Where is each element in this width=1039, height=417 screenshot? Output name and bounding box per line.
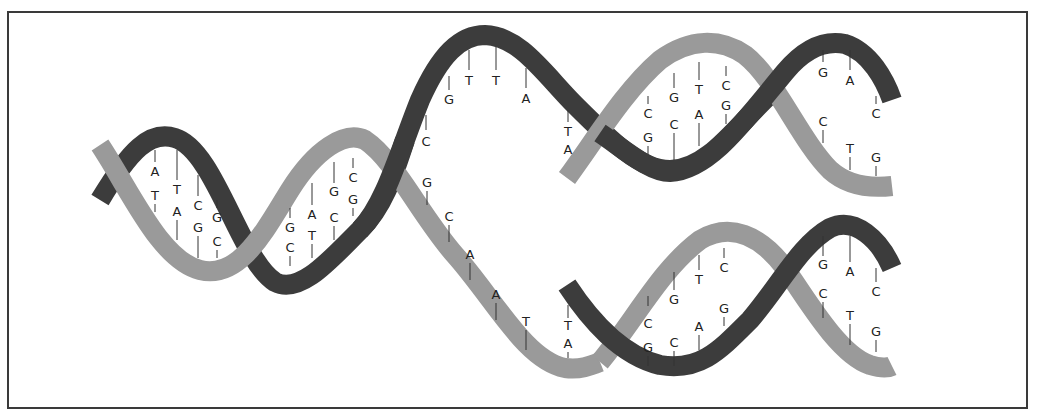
base-label: T bbox=[694, 272, 703, 287]
base-label: C bbox=[818, 286, 827, 301]
base-label: C bbox=[643, 316, 652, 331]
base-label: A bbox=[492, 287, 501, 302]
base-label: T bbox=[694, 82, 703, 97]
daughter-helix-top bbox=[567, 43, 892, 187]
base-label: C bbox=[721, 78, 730, 93]
base-label: A bbox=[846, 264, 855, 279]
base-label: A bbox=[522, 91, 531, 106]
base-label: T bbox=[464, 73, 473, 88]
base-label: C bbox=[444, 209, 453, 224]
base-label: T bbox=[307, 228, 316, 243]
base-label: A bbox=[308, 207, 317, 222]
base-label: G bbox=[871, 324, 881, 339]
base-label: G bbox=[422, 175, 432, 190]
base-label: G bbox=[721, 98, 731, 113]
base-label: T bbox=[172, 182, 181, 197]
base-label: C bbox=[348, 170, 357, 185]
base-label: C bbox=[669, 117, 678, 132]
base-label: C bbox=[329, 210, 338, 225]
base-label: G bbox=[818, 65, 828, 80]
base-label: T bbox=[845, 141, 854, 156]
base-label: G bbox=[193, 220, 203, 235]
base-label: C bbox=[421, 134, 430, 149]
base-label: G bbox=[348, 192, 358, 207]
base-label: T bbox=[563, 318, 572, 333]
base-label: G bbox=[871, 150, 881, 165]
base-label: C bbox=[193, 198, 202, 213]
base-label: T bbox=[521, 314, 530, 329]
base-label: G bbox=[669, 90, 679, 105]
daughter-helix-bottom bbox=[567, 225, 892, 368]
base-label: G bbox=[329, 184, 339, 199]
base-label: G bbox=[643, 340, 653, 355]
base-label: A bbox=[466, 247, 475, 262]
base-label: G bbox=[444, 92, 454, 107]
base-label: T bbox=[845, 308, 854, 323]
base-label: G bbox=[643, 130, 653, 145]
base-label: C bbox=[871, 106, 880, 121]
base-label: T bbox=[491, 73, 500, 88]
base-label: C bbox=[719, 260, 728, 275]
base-label: C bbox=[643, 106, 652, 121]
base-label: C bbox=[669, 335, 678, 350]
base-label: A bbox=[173, 204, 182, 219]
base-label: C bbox=[818, 114, 827, 129]
base-label: A bbox=[695, 107, 704, 122]
dna-replication-diagram: A T T A C G G C G C A T G C C G C bbox=[0, 0, 1039, 417]
base-label: G bbox=[669, 292, 679, 307]
base-label: T bbox=[150, 188, 159, 203]
base-label: G bbox=[212, 210, 222, 225]
top-new-light-strand bbox=[567, 43, 892, 187]
base-label: A bbox=[564, 336, 573, 351]
base-label: G bbox=[285, 220, 295, 235]
base-label: G bbox=[719, 301, 729, 316]
base-label: A bbox=[846, 73, 855, 88]
base-label: A bbox=[151, 164, 160, 179]
base-label: C bbox=[871, 284, 880, 299]
base-label: C bbox=[285, 240, 294, 255]
base-label: A bbox=[564, 142, 573, 157]
base-label: T bbox=[563, 124, 572, 139]
base-label: C bbox=[212, 234, 221, 249]
base-label: A bbox=[695, 319, 704, 334]
base-label: G bbox=[818, 257, 828, 272]
